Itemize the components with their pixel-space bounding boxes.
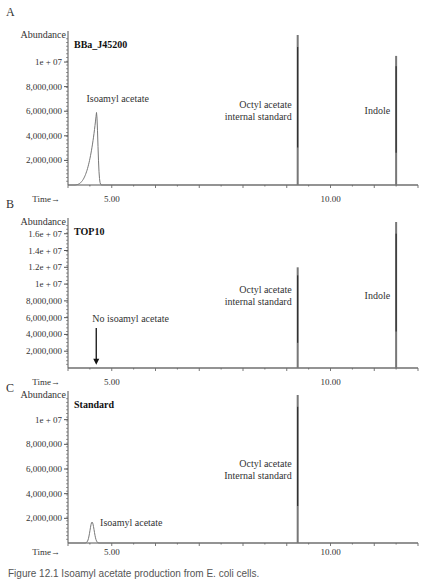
panel-a: AAbundanceBBa_J452002,000,0004,000,0006,… — [6, 5, 418, 204]
panel-title: BBa_J45200 — [74, 39, 127, 50]
x-axis-label: Time→ — [32, 547, 60, 557]
y-tick-label: 6,000,000 — [26, 106, 63, 116]
y-tick-label: 4,000,000 — [26, 131, 63, 141]
panel-c: CAbundanceStandard2,000,0004,000,0006,00… — [6, 381, 418, 557]
y-tick-label: 8,000,000 — [26, 296, 63, 306]
y-tick-label: 4,000,000 — [26, 329, 63, 339]
peak-label: Octyl acetate — [239, 284, 292, 295]
panel-label: B — [6, 197, 14, 211]
y-tick-label: 2,000,000 — [26, 513, 63, 523]
peak-label: internal standard — [225, 296, 292, 307]
x-tick-label: 5.00 — [104, 194, 120, 204]
x-tick-label: 5.00 — [104, 377, 120, 387]
y-tick-label: 6,000,000 — [26, 464, 63, 474]
x-axis-label: Time→ — [32, 194, 60, 204]
x-tick-label: 10.00 — [320, 547, 341, 557]
peak-label: Octyl acetate — [239, 99, 292, 110]
annotation-label: No isoamyl acetate — [92, 313, 169, 324]
y-tick-label: 8,000,000 — [26, 439, 63, 449]
y-tick-label: 6,000,000 — [26, 313, 63, 323]
y-axis-label: Abundance — [20, 389, 66, 400]
chromatogram-trace — [68, 113, 418, 186]
peak-label: Isoamyl acetate — [86, 93, 149, 104]
panel-b: BAbundanceTOP102,000,0004,000,0006,000,0… — [6, 197, 418, 387]
y-tick-label: 1.4e + 07 — [28, 246, 62, 256]
peak-label: internal standard — [225, 111, 292, 122]
peak-label: Internal standard — [224, 470, 291, 481]
panel-title: TOP10 — [74, 226, 104, 237]
peak-label: Indole — [365, 290, 391, 301]
x-tick-label: 10.00 — [320, 377, 341, 387]
y-tick-label: 1e + 07 — [35, 279, 63, 289]
x-axis-label: Time→ — [32, 377, 60, 387]
y-tick-label: 1e + 07 — [35, 57, 63, 67]
y-tick-label: 2,000,000 — [26, 155, 63, 165]
peak-label: Isoamyl acetate — [100, 517, 163, 528]
peak-label: Indole — [365, 105, 391, 116]
x-tick-label: 10.00 — [320, 194, 341, 204]
y-tick-label: 4,000,000 — [26, 489, 63, 499]
y-axis-label: Abundance — [20, 216, 66, 227]
x-tick-label: 5.00 — [104, 547, 120, 557]
panel-title: Standard — [74, 399, 114, 410]
figure-caption: Figure 12.1 Isoamyl acetate production f… — [8, 568, 259, 579]
y-tick-label: 1e + 07 — [35, 415, 63, 425]
panel-label: C — [6, 381, 14, 395]
y-tick-label: 8,000,000 — [26, 82, 63, 92]
y-axis-label: Abundance — [20, 29, 66, 40]
peak-label: Octyl acetate — [239, 458, 292, 469]
y-tick-label: 2,000,000 — [26, 346, 63, 356]
y-tick-label: 1.6e + 07 — [28, 229, 62, 239]
panel-label: A — [6, 5, 15, 19]
y-tick-label: 1.2e + 07 — [28, 262, 62, 272]
